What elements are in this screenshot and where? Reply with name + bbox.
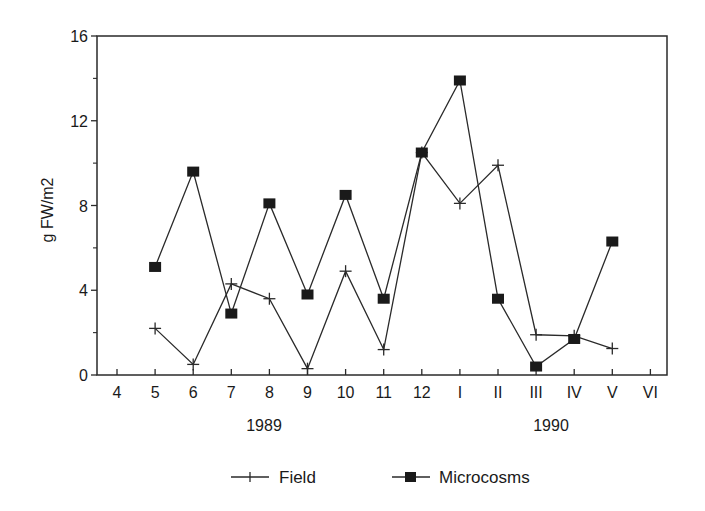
y-axis-ticks: 0481216 — [70, 28, 97, 384]
x-tick-label: 12 — [413, 384, 431, 401]
series-line — [155, 80, 612, 366]
plot-frame — [97, 36, 667, 375]
square-marker-icon — [606, 237, 618, 247]
x-tick-label: IV — [567, 384, 582, 401]
legend-label-microcosms: Microcosms — [439, 468, 530, 487]
x-tick-label: VI — [643, 384, 658, 401]
x-tick-label: 6 — [189, 384, 198, 401]
y-axis-label: g FW/m2 — [39, 177, 56, 242]
square-marker-icon — [416, 148, 428, 158]
year-label-1989: 1989 — [246, 417, 282, 434]
legend-item-field: Field — [231, 468, 316, 487]
microcosms-square-marker-icon — [405, 472, 416, 482]
x-tick-label: 9 — [303, 384, 312, 401]
x-tick-label: 11 — [375, 384, 392, 401]
legend: Field Microcosms — [231, 468, 530, 487]
series-line — [155, 153, 612, 369]
square-marker-icon — [187, 167, 199, 177]
square-marker-icon — [492, 294, 504, 304]
square-marker-icon — [530, 362, 542, 372]
square-marker-icon — [149, 262, 161, 272]
x-tick-label: 10 — [337, 384, 355, 401]
x-tick-label: II — [494, 384, 503, 401]
y-tick-label: 12 — [70, 113, 88, 130]
x-tick-label: V — [607, 384, 618, 401]
legend-item-microcosms: Microcosms — [392, 468, 530, 487]
line-chart: 0481216 456789101112IIIIIIIVVVI g FW/m2 … — [0, 0, 705, 511]
x-tick-label: III — [529, 384, 542, 401]
x-tick-label: I — [458, 384, 462, 401]
y-tick-label: 0 — [79, 367, 88, 384]
legend-label-field: Field — [279, 468, 316, 487]
square-marker-icon — [568, 334, 580, 344]
x-tick-label: 7 — [227, 384, 236, 401]
x-axis-ticks: 456789101112IIIIIIIVVVI — [113, 369, 658, 401]
series-microcosms — [149, 75, 618, 371]
square-marker-icon — [340, 190, 352, 200]
series-field — [149, 147, 618, 375]
y-tick-label: 16 — [70, 28, 88, 45]
x-tick-label: 8 — [265, 384, 274, 401]
square-marker-icon — [378, 294, 390, 304]
square-marker-icon — [225, 309, 237, 319]
square-marker-icon — [454, 75, 466, 85]
y-tick-label: 8 — [79, 198, 88, 215]
year-label-1990: 1990 — [533, 417, 569, 434]
y-tick-label: 4 — [79, 282, 88, 299]
square-marker-icon — [263, 198, 275, 208]
square-marker-icon — [302, 289, 314, 299]
x-tick-label: 5 — [151, 384, 160, 401]
x-tick-label: 4 — [113, 384, 122, 401]
